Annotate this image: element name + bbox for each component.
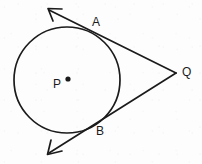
ray-qa-line <box>49 10 176 73</box>
point-label-a: A <box>92 16 100 28</box>
point-label-q: Q <box>182 66 192 78</box>
geometry-figure: A B P Q <box>0 0 202 164</box>
point-label-p: P <box>53 78 61 90</box>
point-label-b: B <box>96 125 104 137</box>
center-point-dot <box>65 76 70 81</box>
figure-canvas <box>0 0 202 164</box>
ray-qb-line <box>49 73 176 153</box>
